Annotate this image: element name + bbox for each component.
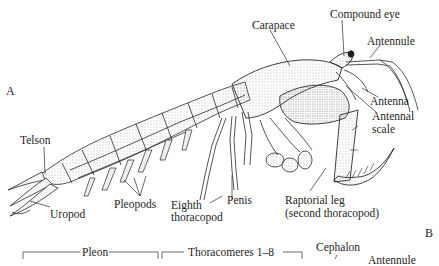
label-antennal-scale-line1: Antennal xyxy=(372,110,414,122)
label-cephalon: Cephalon xyxy=(316,241,360,253)
pleopods-leader-3 xyxy=(140,176,146,196)
label-uropod: Uropod xyxy=(50,208,85,220)
label-telson: Telson xyxy=(20,134,51,146)
label-antennule-b: Antennule xyxy=(368,254,416,266)
label-eighth-thoracopod-line2: thoracopod xyxy=(171,211,223,223)
carapace-leader xyxy=(270,30,290,66)
thoracic-legs xyxy=(200,112,252,200)
thoracomeres-bracket-right xyxy=(283,252,302,259)
raptorial-limb-base xyxy=(280,85,349,124)
telson-leader xyxy=(44,147,45,174)
thoracomeres-bracket-left xyxy=(162,252,184,259)
label-thoracomeres: Thoracomeres 1–8 xyxy=(187,246,275,258)
panel-label-b: B xyxy=(425,226,433,241)
pleon-bracket-left xyxy=(23,252,80,259)
compound-eye-leader xyxy=(342,20,344,56)
label-raptorial-leg-line1: Raptorial leg xyxy=(285,194,345,206)
panel-b-brackets xyxy=(23,252,337,259)
maxillipeds xyxy=(260,118,312,172)
label-carapace: Carapace xyxy=(252,19,295,31)
eighth-thoracopod-leader xyxy=(210,196,222,203)
label-pleopods: Pleopods xyxy=(114,198,156,210)
label-compound-eye: Compound eye xyxy=(330,8,400,20)
label-raptorial-leg-line2: (second thoracopod) xyxy=(285,207,379,219)
label-antenna: Antenna xyxy=(370,95,409,107)
panel-label-a: A xyxy=(6,84,15,99)
label-penis: Penis xyxy=(227,194,252,206)
raptorial-leg-leader xyxy=(310,168,326,191)
label-antennule: Antennule xyxy=(367,35,415,47)
cephalon-leader xyxy=(335,255,337,259)
label-eighth-thoracopod-line1: Eighth xyxy=(171,199,202,211)
label-pleon: Pleon xyxy=(81,246,109,258)
label-antennal-scale-line2: scale xyxy=(372,123,395,135)
pleon-bracket-right xyxy=(108,252,158,259)
